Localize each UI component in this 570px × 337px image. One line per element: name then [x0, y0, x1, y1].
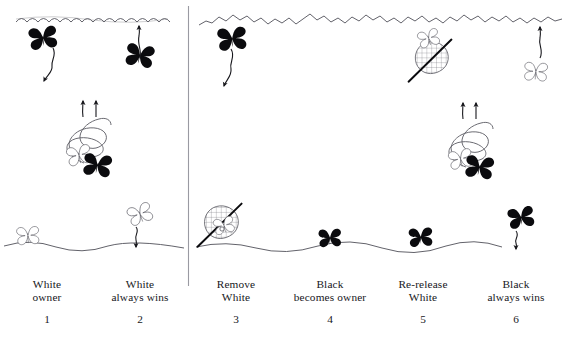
panel-3-number: 3 [192, 313, 280, 325]
panel-4-caption-line1: Black [316, 278, 343, 290]
panel-6-caption-line2: always wins [464, 291, 568, 304]
panel3-butterfly-net[interactable] [198, 204, 242, 247]
ground-line-left [4, 242, 184, 251]
panel-1-number: 1 [0, 313, 94, 325]
panel-2-caption-line2: always wins [88, 291, 192, 304]
panel-4-caption-line2: becomes owner [272, 291, 388, 304]
canopy-line-right [199, 14, 562, 25]
panel-5-caption-line1: Re-release [398, 278, 447, 290]
panel-1-caption: White owner [0, 278, 94, 304]
panel-6-caption-line1: Black [502, 278, 529, 290]
panel4-black-butterfly-ground [318, 229, 341, 248]
panel1-black-butterfly-canopy [28, 25, 59, 50]
panel2-descending-arrow [136, 227, 138, 247]
panel-3-caption-line1: Remove [217, 278, 256, 290]
panel5-black-butterfly-ground [408, 227, 433, 247]
panel6-ascending-arrow [540, 27, 542, 58]
panel-5-caption: Re-release White [382, 278, 464, 304]
panel-3-caption-line2: White [192, 291, 280, 304]
panel2-white-butterfly [126, 201, 154, 226]
panel-4-number: 4 [272, 313, 388, 325]
panel-5-number: 5 [382, 313, 464, 325]
panel6-descending-arrow [516, 231, 518, 249]
panel5-spiral-flight [448, 103, 495, 180]
ground-line-right [196, 242, 502, 253]
panel3-black-butterfly-canopy [217, 26, 248, 51]
panel-3-caption: Remove White [192, 278, 280, 304]
panel-1-caption-line2: owner [0, 291, 94, 304]
panel-1-caption-line1: White [33, 278, 61, 290]
panel-6-number: 6 [464, 313, 568, 325]
right-half-scene [196, 14, 562, 253]
panel-4-caption: Black becomes owner [272, 278, 388, 304]
panel-5-caption-line2: White [382, 291, 464, 304]
panel6-black-butterfly [507, 205, 536, 229]
left-half-scene [4, 17, 184, 251]
panel3-descending-arrow [224, 49, 233, 86]
panel1-spiral-flight [66, 101, 113, 178]
panel6-white-butterfly [524, 62, 548, 81]
panel-6-caption: Black always wins [464, 278, 568, 304]
panel-2-caption: White always wins [88, 278, 192, 304]
panel1-descending-arrow [44, 48, 54, 81]
panel5-butterfly-net[interactable] [409, 40, 452, 82]
panel-2-number: 2 [88, 313, 192, 325]
panel-2-caption-line1: White [126, 278, 154, 290]
